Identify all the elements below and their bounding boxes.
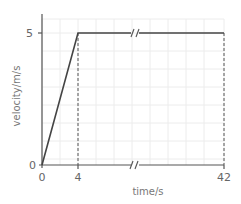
x-tick-label-0: 0 (39, 171, 46, 184)
grid (42, 19, 224, 165)
y-tick-label-5: 5 (26, 27, 33, 40)
velocity-series (42, 33, 224, 165)
y-axis-label: velocity/m/s (11, 66, 22, 127)
velocity-time-chart: 5 0 0 4 42 time/s velocity/m/s (0, 0, 241, 204)
x-tick-label-42: 42 (217, 171, 231, 184)
dashed-guides (78, 33, 224, 165)
x-tick-label-4: 4 (75, 171, 82, 184)
x-axis-break-icon (130, 161, 138, 169)
line-before-break (42, 33, 131, 165)
y-tick-label-0: 0 (29, 159, 36, 172)
axes (38, 14, 224, 169)
x-axis-label: time/s (132, 186, 163, 197)
